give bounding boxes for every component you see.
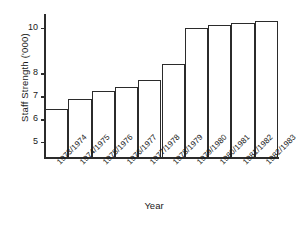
figure-caption-fragment <box>4 216 194 225</box>
y-tick-label: 10 <box>28 22 38 32</box>
y-tick-mark <box>41 96 45 97</box>
y-tick-mark <box>41 73 45 74</box>
y-tick-label: 5 <box>33 136 38 146</box>
bar-chart-figure: Staff Strength ('000) 108765 1973/197419… <box>0 0 308 225</box>
y-tick-label: 7 <box>33 90 38 100</box>
y-tick-mark <box>41 28 45 29</box>
x-axis-title: Year <box>0 200 308 211</box>
y-tick-label: 8 <box>33 67 38 77</box>
y-tick-label: 6 <box>33 113 38 123</box>
